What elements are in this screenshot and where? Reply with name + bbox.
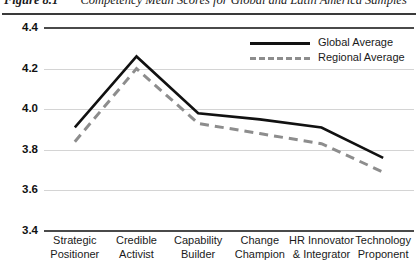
legend-line-solid-icon <box>250 42 310 45</box>
y-tick-label: 4.2 <box>0 62 38 74</box>
x-tick-label: TechnologyProponent <box>346 234 418 261</box>
y-tick-label: 4.0 <box>0 102 38 114</box>
legend-line-dashed-icon <box>250 57 310 60</box>
figure-caption: Competency Mean Scores for Global and La… <box>80 0 406 7</box>
legend-item-global: Global Average <box>250 36 416 51</box>
chart-legend: Global Average Regional Average <box>250 36 416 66</box>
page-title: Figure 8.1 Competency Mean Scores for Gl… <box>4 0 407 8</box>
y-tick-label: 3.8 <box>0 143 38 155</box>
series-line-global-average <box>75 56 383 158</box>
y-tick-label: 4.4 <box>0 21 38 33</box>
figure-container: Figure 8.1 Competency Mean Scores for Gl… <box>0 0 418 263</box>
legend-item-regional: Regional Average <box>250 51 416 66</box>
legend-label-regional: Regional Average <box>318 51 405 63</box>
y-tick-label: 3.4 <box>0 224 38 236</box>
title-divider <box>2 13 416 15</box>
x-axis-labels: StrategicPositionerCredibleActivistCapab… <box>44 234 414 263</box>
figure-number: Figure 8.1 <box>4 0 58 7</box>
legend-label-global: Global Average <box>318 36 393 48</box>
series-line-regional-average <box>75 69 383 173</box>
figure-title-band: Figure 8.1 Competency Mean Scores for Gl… <box>0 0 418 12</box>
y-tick-label: 3.6 <box>0 183 38 195</box>
